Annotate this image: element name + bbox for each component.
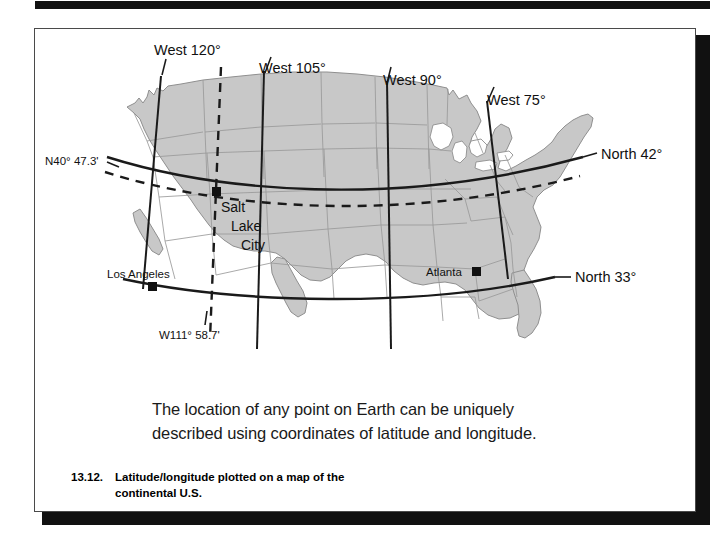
- top-page-rule: [35, 1, 710, 9]
- leader-longitude-callout: [205, 311, 207, 325]
- figure-number: 13.12.: [71, 469, 115, 485]
- figure-caption: 13.12. Latitude/longitude plotted on a m…: [71, 469, 631, 502]
- caption-line-2: continental U.S.: [115, 485, 631, 501]
- label-west-105: West 105°: [259, 60, 326, 76]
- label-latitude-callout: N40° 47.3': [45, 155, 98, 167]
- us-map-graphic: West 120° West 105° West 90° West 75° No…: [35, 29, 697, 389]
- figure-body-text: The location of any point on Earth can b…: [152, 397, 622, 446]
- map-area: West 120° West 105° West 90° West 75° No…: [35, 29, 697, 389]
- figure-caption-text: Latitude/longitude plotted on a map of t…: [115, 469, 631, 502]
- leader-west-120: [162, 59, 166, 75]
- label-north-33: North 33°: [575, 269, 636, 285]
- caption-line-1: Latitude/longitude plotted on a map of t…: [115, 469, 631, 485]
- label-west-120: West 120°: [154, 42, 221, 58]
- body-text-line-1: The location of any point on Earth can b…: [152, 397, 622, 421]
- label-atlanta: Atlanta: [426, 266, 462, 278]
- body-text-line-2: described using coordinates of latitude …: [152, 421, 622, 445]
- label-north-42: North 42°: [601, 146, 662, 162]
- atlanta-marker[interactable]: [472, 267, 481, 276]
- label-salt-lake-city-line2: Lake: [231, 218, 262, 234]
- leader-latitude-callout: [107, 162, 119, 167]
- leader-north-42: [583, 153, 597, 157]
- label-west-75: West 75°: [487, 92, 546, 108]
- salt-lake-city-marker[interactable]: [212, 187, 221, 196]
- figure-box: West 120° West 105° West 90° West 75° No…: [34, 28, 696, 512]
- los-angeles-marker[interactable]: [148, 282, 157, 291]
- label-salt-lake-city-line3: City: [241, 237, 265, 253]
- label-longitude-callout: W111° 58.7': [159, 329, 220, 341]
- label-west-90: West 90°: [383, 72, 442, 88]
- label-salt-lake-city-line1: Salt: [221, 199, 245, 215]
- label-los-angeles: Los Angeles: [107, 268, 170, 280]
